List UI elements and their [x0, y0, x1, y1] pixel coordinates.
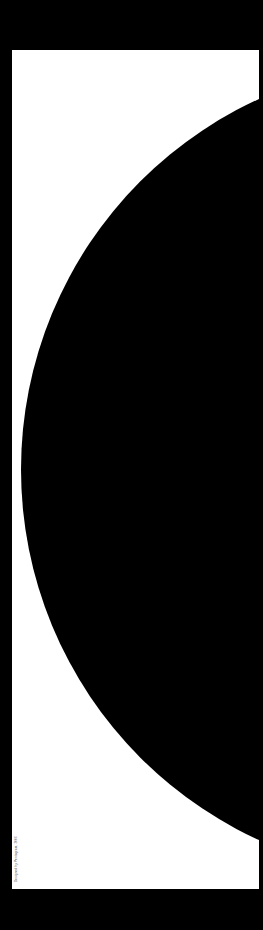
poster-caption: Designed by Pentagram, 2006 — [14, 836, 18, 882]
poster-panel: Designed by Pentagram, 2006 — [12, 50, 259, 889]
semicircle-shape — [21, 62, 259, 877]
